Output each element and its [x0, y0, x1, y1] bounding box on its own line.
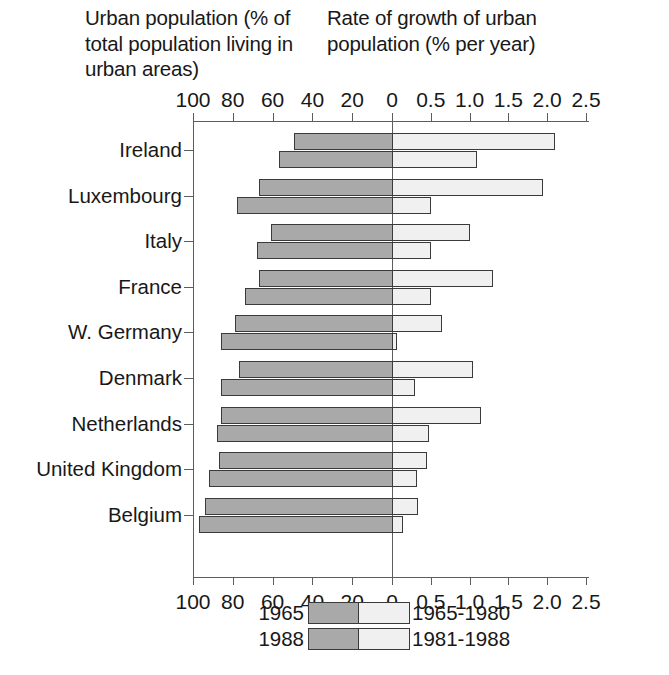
x-tick-left-80-bottom: [233, 577, 234, 585]
bar-growth-rate-united-kingdom-1981-1988: [392, 470, 417, 487]
x-tick-left-20-bottom: [352, 577, 353, 585]
y-tick-belgium: [184, 515, 193, 516]
bar-urban-population-w-germany-1988: [221, 333, 393, 350]
legend-row-1965: 1965 1965-1980: [226, 600, 510, 626]
legend-row-1988: 1988 1981-1988: [226, 626, 510, 652]
y-tick-luxembourg: [184, 196, 193, 197]
y-tick-united-kingdom: [184, 469, 193, 470]
x-tick-right-0-bottom: [392, 577, 393, 585]
chart-titles: Urban population (% of total population …: [0, 0, 669, 82]
y-axis-label-united-kingdom: United Kingdom: [36, 459, 182, 480]
y-axis-label-belgium: Belgium: [108, 505, 182, 526]
bar-growth-rate-luxembourg-1981-1988: [392, 197, 431, 214]
x-tick-right-2p5-bottom: [586, 577, 587, 585]
bar-growth-rate-netherlands-1981-1988: [392, 425, 429, 442]
x-tick-left-20-top: [352, 113, 353, 121]
bar-growth-rate-w-germany-1965-1980: [392, 315, 442, 332]
y-tick-netherlands: [184, 424, 193, 425]
x-tick-right-2p5-top: [586, 113, 587, 121]
y-tick-denmark: [184, 378, 193, 379]
axis-line-left: [193, 121, 194, 578]
bar-growth-rate-france-1965-1980: [392, 270, 493, 287]
x-tick-right-1p5-top: [508, 113, 509, 121]
y-axis-label-france: France: [118, 277, 182, 298]
x-tick-right-0p5-top: [431, 113, 432, 121]
bar-growth-rate-belgium-1981-1988: [392, 516, 403, 533]
right-panel-axis-title: Rate of growth of urban population (% pe…: [327, 5, 597, 56]
y-axis-label-netherlands: Netherlands: [71, 413, 182, 434]
x-tick-left-60-top: [273, 113, 274, 121]
x-tick-right-1-top: [470, 113, 471, 121]
bar-urban-population-united-kingdom-1965: [219, 452, 393, 469]
y-axis-label-w-germany: W. Germany: [68, 322, 182, 343]
legend-label-1981-1988: 1981-1988: [412, 629, 510, 650]
bar-growth-rate-italy-1965-1980: [392, 224, 470, 241]
bar-growth-rate-luxembourg-1965-1980: [392, 179, 543, 196]
bar-urban-population-w-germany-1965: [235, 315, 393, 332]
legend-label-1988: 1988: [226, 629, 304, 650]
x-tick-left-60-bottom: [273, 577, 274, 585]
bar-urban-population-ireland-1988: [279, 151, 393, 168]
bar-urban-population-ireland-1965: [294, 133, 393, 150]
bar-urban-population-luxembourg-1965: [259, 179, 393, 196]
x-tick-right-1p5-bottom: [508, 577, 509, 585]
x-tick-right-2-top: [547, 113, 548, 121]
legend-swatch-1988: [308, 628, 359, 650]
bar-growth-rate-ireland-1981-1988: [392, 151, 477, 168]
x-tick-left-80-top: [233, 113, 234, 121]
bar-urban-population-france-1988: [245, 288, 393, 305]
axis-line-top: [193, 121, 589, 122]
bar-urban-population-united-kingdom-1988: [209, 470, 393, 487]
bar-urban-population-belgium-1965: [205, 498, 393, 515]
y-axis-label-luxembourg: Luxembourg: [68, 185, 182, 206]
bar-urban-population-netherlands-1965: [221, 407, 393, 424]
legend-label-1965-1980: 1965-1980: [412, 603, 510, 624]
y-tick-italy: [184, 241, 193, 242]
bar-growth-rate-denmark-1965-1980: [392, 361, 473, 378]
y-axis-label-italy: Italy: [144, 231, 182, 252]
x-tick-label-right-2p5-top: 2.5: [556, 89, 616, 110]
legend-swatch-1981-1988: [359, 628, 410, 650]
bar-growth-rate-ireland-1965-1980: [392, 133, 555, 150]
bar-urban-population-france-1965: [259, 270, 393, 287]
x-tick-left-100-bottom: [193, 577, 194, 585]
bar-growth-rate-france-1981-1988: [392, 288, 431, 305]
y-tick-w-germany: [184, 332, 193, 333]
x-tick-left-100-top: [193, 113, 194, 121]
chart-plot-area: 1008060402000.51.01.52.02.5 100806040200…: [193, 121, 589, 578]
bar-urban-population-belgium-1988: [199, 516, 393, 533]
x-tick-right-0p5-bottom: [431, 577, 432, 585]
y-axis-label-denmark: Denmark: [99, 368, 182, 389]
x-tick-right-0-top: [392, 113, 393, 121]
bar-urban-population-netherlands-1988: [217, 425, 393, 442]
x-tick-left-40-bottom: [312, 577, 313, 585]
x-tick-left-40-top: [312, 113, 313, 121]
bar-growth-rate-w-germany-1981-1988: [392, 333, 397, 350]
y-axis-label-ireland: Ireland: [119, 140, 182, 161]
bar-growth-rate-belgium-1965-1980: [392, 498, 418, 515]
y-tick-france: [184, 287, 193, 288]
y-tick-ireland: [184, 150, 193, 151]
legend-label-1965: 1965: [226, 603, 304, 624]
x-tick-right-2-bottom: [547, 577, 548, 585]
bar-urban-population-denmark-1988: [221, 379, 393, 396]
left-panel-axis-title: Urban population (% of total population …: [85, 5, 315, 82]
bar-growth-rate-italy-1981-1988: [392, 242, 431, 259]
axis-line-bottom: [193, 577, 589, 578]
legend-swatch-1965-1980: [359, 602, 410, 624]
bar-growth-rate-netherlands-1965-1980: [392, 407, 481, 424]
legend-swatch-1965: [308, 602, 359, 624]
bar-urban-population-italy-1965: [271, 224, 393, 241]
chart-legend: 1965 1965-1980 1988 1981-1988: [0, 600, 669, 662]
bar-growth-rate-denmark-1981-1988: [392, 379, 415, 396]
bar-urban-population-luxembourg-1988: [237, 197, 393, 214]
bar-growth-rate-united-kingdom-1965-1980: [392, 452, 427, 469]
bar-urban-population-denmark-1965: [239, 361, 393, 378]
x-tick-right-1-bottom: [470, 577, 471, 585]
bar-urban-population-italy-1988: [257, 242, 393, 259]
